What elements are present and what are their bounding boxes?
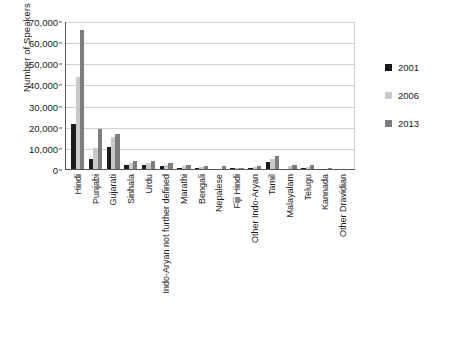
y-axis-tick-label: 0: [53, 165, 58, 176]
legend-item: 2006: [385, 90, 419, 101]
x-axis-label-cell: Punjabi: [87, 174, 105, 324]
legend-label: 2013: [398, 118, 419, 129]
bar-group: [157, 22, 175, 170]
bar-group: [246, 22, 264, 170]
x-axis-tick-label: Sinhala: [126, 174, 135, 204]
x-axis-label-cell: Tamil: [264, 174, 282, 324]
legend: 200120062013: [385, 62, 419, 146]
x-axis-label-cell: Urdu: [140, 174, 158, 324]
bar-group: [264, 22, 282, 170]
bar-group: [69, 22, 87, 170]
x-axis-label-cell: Gujarati: [104, 174, 122, 324]
y-axis-tick-label: 40,000: [29, 80, 58, 91]
x-axis-line: [65, 169, 355, 170]
x-axis-tick-label: Other Indo-Aryan: [250, 174, 259, 243]
x-axis-label-cell: Sinhala: [122, 174, 140, 324]
x-axis-tick-label: Punjabi: [91, 174, 100, 204]
legend-swatch-icon: [385, 64, 392, 71]
y-axis-tick-label: 60,000: [29, 38, 58, 49]
y-axis-tick-label: 30,000: [29, 101, 58, 112]
x-axis-label-cell: Fiji Hindi: [228, 174, 246, 324]
x-axis-label-cell: Marathi: [175, 174, 193, 324]
x-axis-label-cell: Hindi: [69, 174, 87, 324]
x-axis-label-cell: Kannada: [317, 174, 335, 324]
legend-label: 2001: [398, 62, 419, 73]
x-axis-tick-label: Fiji Hindi: [233, 174, 242, 209]
bar-group: [299, 22, 317, 170]
bar-group: [104, 22, 122, 170]
x-axis-tick-label: Marathi: [179, 174, 188, 204]
bar-group: [193, 22, 211, 170]
x-axis-label-cell: Bengali: [193, 174, 211, 324]
x-axis-tick-label: Gujarati: [109, 174, 118, 206]
x-axis-tick-label: Kannada: [321, 174, 330, 210]
x-axis-tick-label: Nepalese: [215, 174, 224, 212]
y-axis-tick-mark: [59, 43, 62, 44]
x-axis-label-cell: Nepalese: [211, 174, 229, 324]
x-axis-tick-label: Other Dravidian: [339, 174, 348, 237]
bar: [98, 129, 102, 170]
bar-group: [228, 22, 246, 170]
x-axis-tick-label: Urdu: [144, 174, 153, 194]
x-axis-tick-label: Indo-Aryan not further defined: [162, 174, 171, 294]
x-axis-tick-label: Telugu: [303, 174, 312, 201]
bar-group: [122, 22, 140, 170]
y-axis-tick-label: 20,000: [29, 122, 58, 133]
x-axis-tick-label: Bengali: [197, 174, 206, 204]
bar-chart: Number of Speakers 70,00060,00050,00040,…: [0, 0, 467, 341]
x-axis-label-cell: Malayalam: [281, 174, 299, 324]
x-axis-tick-label: Tamil: [268, 174, 277, 195]
x-axis-label-cell: Indo-Aryan not further defined: [157, 174, 175, 324]
legend-label: 2006: [398, 90, 419, 101]
bar: [275, 156, 279, 170]
legend-swatch-icon: [385, 92, 392, 99]
y-axis-tick-mark: [59, 148, 62, 149]
y-axis-tick-label: 10,000: [29, 143, 58, 154]
y-axis-tick-mark: [59, 170, 62, 171]
bar-group: [175, 22, 193, 170]
bar-group: [140, 22, 158, 170]
y-axis-tick-labels: 70,00060,00050,00040,00030,00020,00010,0…: [0, 22, 62, 170]
legend-item: 2001: [385, 62, 419, 73]
legend-swatch-icon: [385, 120, 392, 127]
bar: [115, 134, 119, 170]
bar: [80, 30, 84, 170]
bar-group: [334, 22, 352, 170]
bar-group: [317, 22, 335, 170]
y-axis-tick-mark: [59, 106, 62, 107]
bar-groups: [65, 22, 355, 170]
x-axis-label-cell: Other Indo-Aryan: [246, 174, 264, 324]
y-axis-tick-label: 70,000: [29, 17, 58, 28]
y-axis-tick-mark: [59, 127, 62, 128]
x-axis-label-cell: Other Dravidian: [334, 174, 352, 324]
x-axis-label-cell: Telugu: [299, 174, 317, 324]
plot-area: [65, 22, 355, 170]
bar-group: [281, 22, 299, 170]
bar-group: [211, 22, 229, 170]
x-axis-tick-labels: HindiPunjabiGujaratiSinhalaUrduIndo-Arya…: [65, 174, 355, 324]
bar-group: [87, 22, 105, 170]
y-axis-tick-mark: [59, 22, 62, 23]
y-axis-tick-mark: [59, 85, 62, 86]
y-axis-tick-mark: [59, 64, 62, 65]
y-axis-tick-label: 50,000: [29, 59, 58, 70]
legend-item: 2013: [385, 118, 419, 129]
x-axis-tick-label: Malayalam: [286, 174, 295, 218]
x-axis-tick-label: Hindi: [73, 174, 82, 195]
